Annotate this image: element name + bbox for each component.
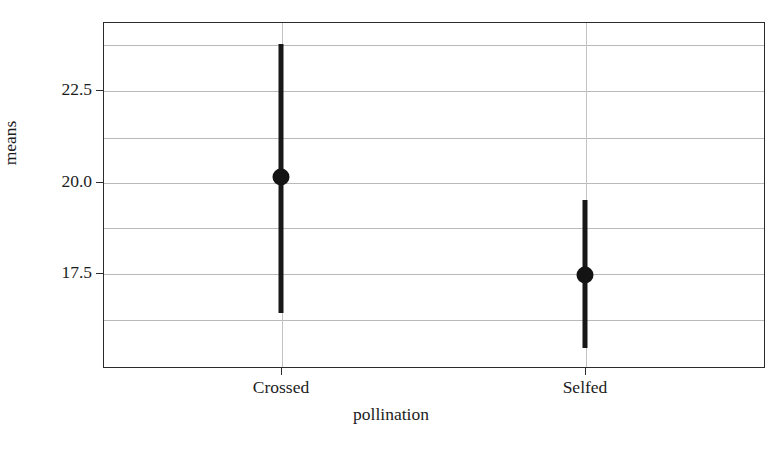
y-tick-mark [96,90,103,91]
x-tick-label-crossed: Crossed [253,379,309,397]
y-tick-label: 20.0 [40,173,92,191]
mean-marker-selfed [577,267,594,284]
x-axis-title: pollination [0,404,782,425]
gridline-horizontal [104,274,764,275]
y-axis-title: means [0,83,21,203]
gridline-horizontal [104,138,764,139]
gridline-horizontal [104,91,764,92]
gridline-horizontal [104,228,764,229]
plot-area [103,22,765,368]
y-tick-mark [96,273,103,274]
chart-figure: 22.5 20.0 17.5 Crossed Selfed means poll… [0,0,782,451]
gridline-horizontal [104,320,764,321]
y-tick-mark [96,182,103,183]
x-tick-label-selfed: Selfed [563,379,608,397]
y-tick-label: 22.5 [40,81,92,99]
gridline-horizontal [104,183,764,184]
x-tick-mark [585,368,586,375]
mean-marker-crossed [273,169,290,186]
y-tick-label: 17.5 [40,264,92,282]
x-tick-mark [281,368,282,375]
gridline-horizontal [104,45,764,46]
